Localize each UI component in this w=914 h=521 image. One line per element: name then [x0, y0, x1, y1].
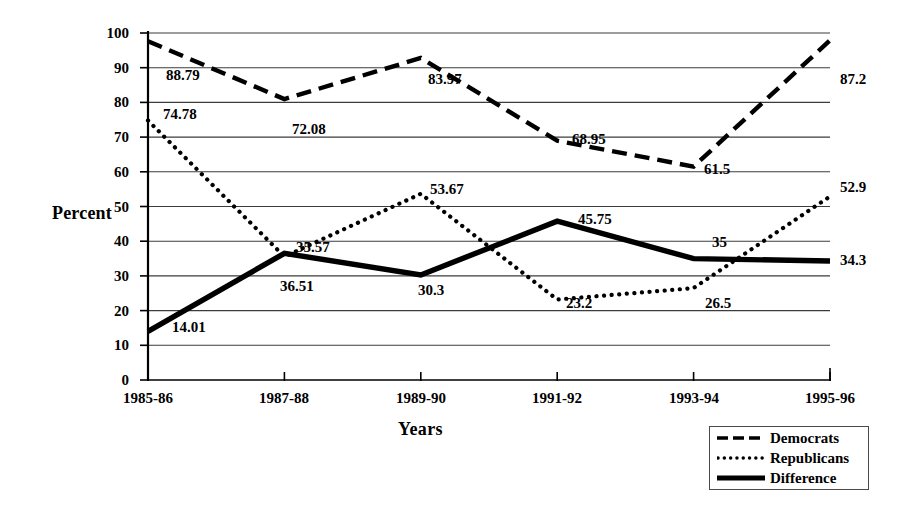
point-label-difference-1985-86: 14.01	[172, 320, 206, 335]
point-label-difference-1989-90: 30.3	[418, 283, 444, 298]
point-label-difference-1993-94: 35	[712, 235, 727, 250]
point-label-difference-1991-92: 45.75	[578, 212, 612, 227]
x-tick-label-1993-94: 1993-94	[634, 391, 754, 406]
line-chart: Percent Years 100 90 80 70 60 50 40 30 2…	[0, 0, 914, 521]
legend-item-republicans[interactable]: Republicans	[717, 448, 849, 468]
point-label-difference-1987-88: 36.51	[280, 279, 314, 294]
legend-label-republicans: Republicans	[770, 451, 849, 466]
point-label-republicans-1991-92: 23.2	[566, 296, 592, 311]
y-tick-label-100: 100	[89, 26, 129, 41]
point-label-democrats-1993-94: 61.5	[704, 162, 730, 177]
x-axis-title: Years	[398, 419, 443, 440]
y-tick-label-70: 70	[89, 130, 129, 145]
y-tick-label-80: 80	[89, 95, 129, 110]
y-tick-label-10: 10	[89, 338, 129, 353]
legend-swatch-dashed-icon	[717, 431, 765, 445]
point-label-democrats-1985-86: 88.79	[166, 68, 200, 83]
legend-swatch-dotted-icon	[717, 451, 765, 465]
legend-label-difference: Difference	[770, 471, 836, 486]
point-label-democrats-1995-96: 87.2	[840, 72, 866, 87]
point-label-democrats-1987-88: 72.08	[292, 122, 326, 137]
y-tick-label-90: 90	[89, 61, 129, 76]
point-label-republicans-1993-94: 26.5	[705, 296, 731, 311]
x-tick-label-1995-96: 1995-96	[770, 391, 890, 406]
y-tick-label-20: 20	[89, 304, 129, 319]
legend-swatch-solid-icon	[717, 471, 765, 485]
point-label-difference-1995-96: 34.3	[840, 253, 866, 268]
series-line-democrats	[148, 40, 830, 166]
y-tick-label-60: 60	[89, 165, 129, 180]
y-tick-label-40: 40	[89, 234, 129, 249]
x-tick-label-1987-88: 1987-88	[224, 391, 344, 406]
legend-item-democrats[interactable]: Democrats	[717, 428, 839, 448]
legend-label-democrats: Democrats	[770, 431, 839, 446]
legend-item-difference[interactable]: Difference	[717, 468, 836, 488]
point-label-republicans-1985-86: 74.78	[163, 107, 197, 122]
x-tick-label-1985-86: 1985-86	[88, 391, 208, 406]
point-label-democrats-1989-90: 83.97	[428, 72, 462, 87]
x-tick-label-1991-92: 1991-92	[497, 391, 617, 406]
x-tick-label-1989-90: 1989-90	[361, 391, 481, 406]
point-label-republicans-1995-96: 52.9	[840, 180, 866, 195]
y-tick-label-50: 50	[89, 200, 129, 215]
point-label-republicans-1989-90: 53.67	[430, 182, 464, 197]
point-label-republicans-1987-88: 35.57	[296, 240, 330, 255]
y-tick-label-0: 0	[89, 373, 129, 388]
point-label-democrats-1991-92: 68.95	[572, 132, 606, 147]
legend: Democrats Republicans Difference	[709, 426, 869, 490]
y-tick-label-30: 30	[89, 269, 129, 284]
